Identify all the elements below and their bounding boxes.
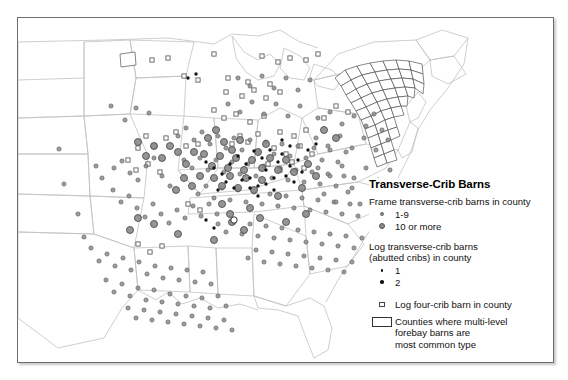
map-marker xyxy=(240,148,244,152)
map-marker xyxy=(167,221,171,225)
map-marker xyxy=(219,201,226,208)
map-marker xyxy=(120,159,124,163)
map-marker xyxy=(201,270,205,274)
map-figure: Transverse-Crib Barns Frame transverse-c… xyxy=(0,0,568,380)
map-marker xyxy=(216,188,219,191)
map-marker xyxy=(284,152,288,156)
map-marker xyxy=(136,178,140,182)
map-marker xyxy=(212,226,215,229)
map-marker xyxy=(160,174,164,178)
map-marker xyxy=(356,214,360,218)
map-marker xyxy=(316,166,320,170)
legend-group-2-heading-line2: (abutted cribs) in county xyxy=(369,252,545,264)
map-marker xyxy=(236,76,240,80)
map-marker xyxy=(326,144,330,148)
map-marker xyxy=(221,139,228,146)
map-marker xyxy=(206,316,210,320)
map-marker xyxy=(204,160,207,163)
map-marker xyxy=(209,282,213,286)
map-marker xyxy=(304,240,308,244)
map-marker xyxy=(292,206,296,210)
map-marker xyxy=(207,202,211,206)
map-marker xyxy=(159,155,166,162)
map-marker xyxy=(186,76,189,79)
map-marker xyxy=(292,180,295,183)
map-marker xyxy=(183,216,187,220)
map-marker xyxy=(228,162,231,165)
map-marker xyxy=(175,231,182,238)
large-gray-circle-icon xyxy=(369,223,395,229)
map-marker xyxy=(276,160,279,163)
map-marker xyxy=(312,146,316,150)
map-marker xyxy=(109,104,113,108)
map-marker xyxy=(283,157,290,164)
map-marker xyxy=(82,235,86,239)
map-marker xyxy=(346,110,350,114)
map-marker xyxy=(182,74,186,78)
map-marker xyxy=(105,252,109,256)
small-black-dot-icon xyxy=(369,269,395,272)
map-marker xyxy=(182,322,186,326)
map-frame: Transverse-Crib Barns Frame transverse-c… xyxy=(17,17,554,363)
legend-item-log-2: 2 xyxy=(369,277,545,288)
open-circle-markers xyxy=(231,217,237,223)
map-marker xyxy=(191,204,195,208)
map-marker xyxy=(321,127,328,134)
map-marker xyxy=(216,222,220,226)
map-marker xyxy=(224,230,228,234)
map-marker xyxy=(304,156,308,160)
map-marker xyxy=(104,278,108,282)
legend-item-label: 1-9 xyxy=(395,209,409,220)
map-marker xyxy=(241,167,248,174)
map-marker xyxy=(100,176,104,180)
map-marker xyxy=(175,208,179,212)
map-marker xyxy=(340,164,344,168)
map-marker xyxy=(224,90,228,94)
map-marker xyxy=(144,134,148,138)
map-marker xyxy=(288,56,292,60)
map-marker xyxy=(198,324,202,328)
map-marker xyxy=(143,215,147,219)
map-marker xyxy=(303,211,310,218)
map-marker xyxy=(134,316,138,320)
map-marker xyxy=(143,153,150,160)
map-marker xyxy=(328,232,332,236)
map-marker xyxy=(350,146,354,150)
map-marker xyxy=(237,137,244,144)
map-marker xyxy=(272,188,275,191)
legend-item-frame-1-9: 1-9 xyxy=(369,209,545,220)
map-marker xyxy=(150,58,154,62)
map-marker xyxy=(294,264,298,268)
map-marker xyxy=(136,286,140,290)
map-marker xyxy=(342,174,346,178)
map-marker xyxy=(264,182,267,185)
map-marker xyxy=(222,318,226,322)
map-marker xyxy=(249,157,256,164)
map-marker xyxy=(328,174,332,178)
map-marker xyxy=(123,118,127,122)
map-marker xyxy=(314,136,318,140)
map-marker xyxy=(260,54,264,58)
map-marker xyxy=(238,110,242,114)
map-marker xyxy=(300,170,303,173)
map-marker xyxy=(236,154,239,157)
map-marker xyxy=(386,138,390,142)
map-marker xyxy=(226,76,230,80)
map-marker xyxy=(176,302,180,306)
map-marker xyxy=(152,156,156,160)
map-marker xyxy=(168,292,172,296)
map-marker xyxy=(161,276,165,280)
map-marker xyxy=(256,194,259,197)
map-marker xyxy=(89,246,93,250)
map-marker xyxy=(290,160,294,164)
map-marker xyxy=(211,237,218,244)
map-marker xyxy=(194,72,197,75)
map-marker xyxy=(264,168,267,171)
map-marker xyxy=(364,166,368,170)
map-marker xyxy=(320,158,324,162)
map-marker xyxy=(270,250,274,254)
map-marker xyxy=(136,242,140,246)
map-marker xyxy=(278,262,282,266)
map-marker xyxy=(177,278,181,282)
map-marker xyxy=(128,294,132,298)
